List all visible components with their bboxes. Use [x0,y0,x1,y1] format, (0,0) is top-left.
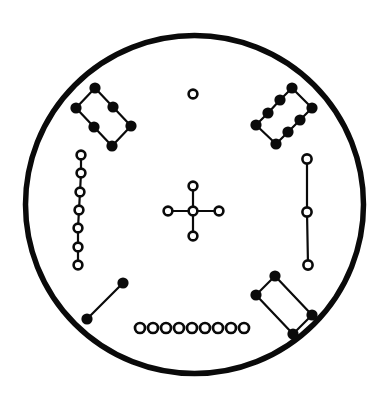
hole-circle [200,323,210,333]
pad-dot [81,313,92,324]
hole-circle [189,90,198,99]
connector-line [307,212,308,265]
pad-dot [306,309,317,320]
hole-circle [74,261,83,270]
pad-dot [70,102,81,113]
hole-circle [77,169,86,178]
hole-circle [161,323,171,333]
pad-dot [250,289,261,300]
pad-dot [89,82,100,93]
pad-dot [106,140,117,151]
pad-dot [287,328,298,339]
plate-drawing [0,0,385,408]
pad-dot [117,277,128,288]
hole-circle [164,207,173,216]
pad-dot [88,121,99,132]
hole-circle [226,323,236,333]
pad-dot [286,82,297,93]
pad-dot [270,138,281,149]
pad-dot [282,126,293,137]
pad-dot [262,107,273,118]
hole-circle [189,232,198,241]
hole-circle [213,323,223,333]
hole-circle [76,188,85,197]
hole-circle [189,182,198,191]
hole-circle [148,323,158,333]
pad-dot [269,270,280,281]
hole-circle [74,224,83,233]
hole-circle [74,243,83,252]
hole-circle [302,207,311,216]
hole-circle [239,323,249,333]
alignment-hole-top [189,90,198,99]
hole-row-bottom [135,323,249,333]
hole-circle [303,260,312,269]
hole-circle [215,207,224,216]
pad-dot [107,101,118,112]
pad-dot [250,119,261,130]
pad-dot [125,120,136,131]
hole-circle [189,207,198,216]
hole-circle [302,154,311,163]
pad-dot [294,114,305,125]
pad-dot [274,94,285,105]
hole-circle [77,151,86,160]
hole-circle [174,323,184,333]
diagram-canvas [0,0,385,408]
hole-circle [187,323,197,333]
pad-dot [306,102,317,113]
hole-circle [135,323,145,333]
hole-circle [75,206,84,215]
